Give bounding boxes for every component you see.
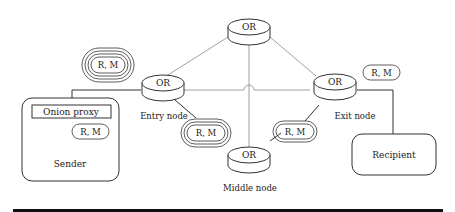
- svg-text:R, M: R, M: [196, 128, 217, 138]
- svg-text:R, M: R, M: [285, 127, 306, 137]
- onion-proxy-label: Onion proxy: [43, 107, 100, 117]
- bottom-rule: [13, 209, 443, 212]
- svg-text:R, M: R, M: [371, 68, 392, 78]
- or-node-exit: OR Exit node: [314, 74, 375, 121]
- or-node-top: OR: [228, 19, 270, 45]
- or-node-entry: OR Entry node: [140, 75, 188, 121]
- sender-box: Onion proxy R, M Sender: [22, 98, 119, 181]
- svg-text:OR: OR: [242, 150, 256, 160]
- svg-text:R, M: R, M: [80, 127, 101, 137]
- message-two-layer: R, M: [181, 119, 231, 147]
- middle-node-caption: Middle node: [223, 183, 277, 193]
- svg-text:R, M: R, M: [98, 60, 119, 70]
- svg-text:OR: OR: [156, 78, 170, 88]
- entry-node-caption: Entry node: [140, 111, 188, 121]
- or-label: OR: [242, 22, 256, 32]
- sender-label: Sender: [54, 159, 87, 169]
- onion-routing-diagram: OR OR Entry node OR Exit node OR Middle …: [0, 0, 455, 212]
- recipient-box: Recipient: [352, 134, 436, 175]
- message-plain: R, M: [363, 65, 400, 80]
- message-one-layer: R, M: [273, 121, 317, 142]
- or-node-middle: OR Middle node: [223, 147, 277, 193]
- svg-text:OR: OR: [328, 77, 342, 87]
- exit-node-caption: Exit node: [335, 111, 376, 121]
- recipient-label: Recipient: [372, 150, 416, 160]
- message-three-layer: R, M: [82, 48, 134, 82]
